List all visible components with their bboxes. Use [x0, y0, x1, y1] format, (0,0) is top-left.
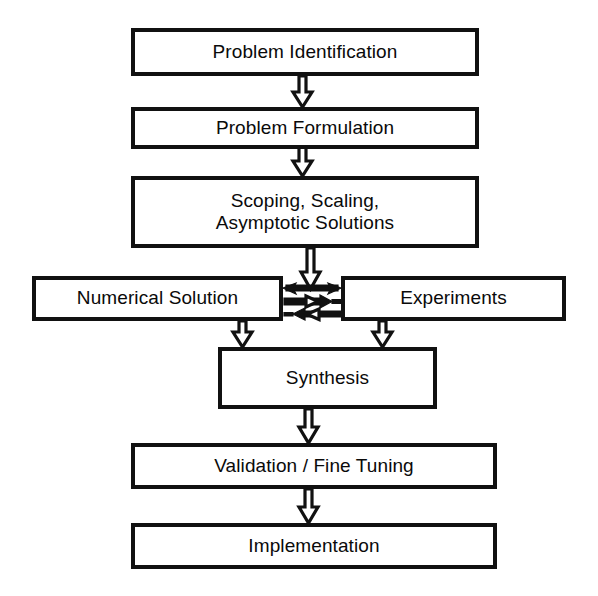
node-label: Validation / Fine Tuning: [208, 455, 420, 477]
arrow-experiments-to-numerical-tail: [284, 313, 293, 317]
node-numerical-solution[interactable]: Numerical Solution: [32, 276, 283, 321]
node-label: Synthesis: [280, 367, 375, 389]
node-implementation[interactable]: Implementation: [131, 523, 497, 569]
arrow-scoping-to-junction: [301, 248, 320, 289]
node-label: Problem Identification: [207, 41, 404, 63]
node-label: Numerical Solution: [71, 287, 244, 309]
node-validation-fine-tuning[interactable]: Validation / Fine Tuning: [131, 443, 497, 489]
arrow-identification-to-formulation: [293, 76, 312, 107]
node-label: Experiments: [394, 287, 513, 309]
arrow-validation-to-implementation: [299, 489, 318, 523]
arrow-formulation-to-scoping: [293, 146, 312, 176]
node-problem-formulation[interactable]: Problem Formulation: [131, 107, 479, 149]
node-synthesis[interactable]: Synthesis: [218, 347, 437, 409]
arrow-synthesis-to-validation: [299, 409, 318, 443]
arrow-numerical-to-synthesis: [233, 321, 252, 347]
node-problem-identification[interactable]: Problem Identification: [131, 28, 479, 76]
node-label: Scoping, Scaling, Asymptotic Solutions: [210, 190, 400, 235]
arrow-numerical-to-experiments-tail: [332, 300, 341, 304]
node-label: Implementation: [242, 535, 385, 557]
flowchart-canvas: Problem Identification Problem Formulati…: [0, 0, 598, 596]
arrow-experiments-to-synthesis: [373, 321, 392, 347]
node-experiments[interactable]: Experiments: [341, 276, 566, 321]
node-label: Problem Formulation: [210, 117, 400, 139]
node-scoping-scaling[interactable]: Scoping, Scaling, Asymptotic Solutions: [131, 176, 479, 248]
